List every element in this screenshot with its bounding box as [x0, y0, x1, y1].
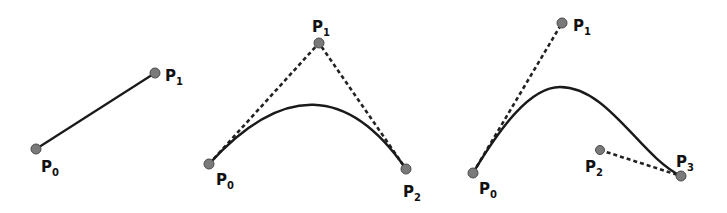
control-point-p1: [314, 38, 324, 48]
linear-segment: [36, 73, 155, 149]
control-point-p3: [676, 171, 686, 181]
control-point-p0: [204, 159, 214, 169]
bezier-curves-diagram: P0 P1 P0 P1 P2 P0 P1 P2 P3: [0, 0, 727, 213]
label-p1: P1: [165, 67, 183, 87]
control-point-p0: [468, 168, 478, 178]
cubic-curve: [473, 87, 681, 176]
cubic-bezier: P0 P1 P2 P3: [468, 17, 694, 200]
control-point-p2: [596, 146, 605, 155]
quadratic-bezier: P0 P1 P2: [204, 18, 421, 203]
label-p0: P0: [216, 171, 234, 191]
label-p2: P2: [585, 158, 603, 178]
control-point-p1: [557, 18, 567, 28]
label-p0: P0: [479, 180, 497, 200]
control-point-p2: [401, 164, 411, 174]
label-p2: P2: [403, 183, 421, 203]
label-p1: P1: [573, 17, 591, 37]
control-line-p2-p3: [600, 150, 681, 176]
control-point-p0: [31, 144, 41, 154]
label-p3: P3: [676, 153, 694, 173]
linear-bezier: P0 P1: [31, 67, 183, 178]
control-point-p1: [150, 68, 160, 78]
label-p0: P0: [41, 158, 59, 178]
label-p1: P1: [312, 18, 330, 38]
quadratic-curve: [209, 105, 406, 169]
